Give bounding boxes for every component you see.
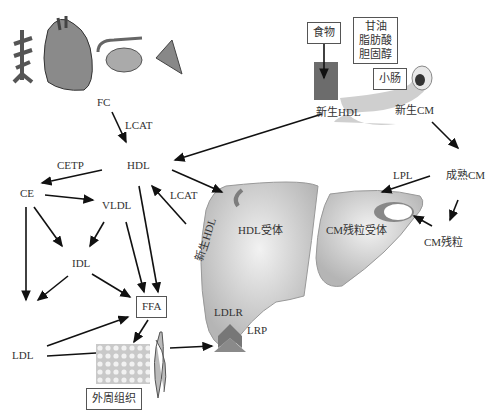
label-cm-remnant: CM残粒 xyxy=(424,237,463,248)
nutrient-fatty-acid: 脂肪酸 xyxy=(359,34,392,48)
label-vldl: VLDL xyxy=(102,200,131,211)
nutrient-cholesterol: 胆固醇 xyxy=(359,48,392,62)
label-lpl: LPL xyxy=(393,170,413,181)
blood-vessel-illustration xyxy=(14,30,32,82)
adipose-tissue-illustration xyxy=(96,344,150,384)
label-nascent-cm: 新生CM xyxy=(395,105,434,116)
label-mature-cm: 成熟CM xyxy=(446,170,485,181)
heart-illustration xyxy=(44,16,92,90)
label-cm-remnant-receptor: CM残粒受体 xyxy=(326,225,387,236)
label-ldlr: LDLR xyxy=(214,307,243,318)
label-hdl-receptor: HDL受体 xyxy=(238,225,283,236)
label-lrp: LRP xyxy=(247,325,267,336)
label-ldl: LDL xyxy=(12,350,33,361)
tissue-wedge-illustration xyxy=(156,40,182,74)
box-small-intestine: 小肠 xyxy=(373,68,407,90)
box-food: 食物 xyxy=(307,22,341,44)
muscle-illustration xyxy=(154,332,165,398)
label-lcat-mid: LCAT xyxy=(170,190,198,201)
box-nutrients: 甘油 脂肪酸 胆固醇 xyxy=(353,17,398,64)
nutrient-glycerol: 甘油 xyxy=(359,20,392,34)
liver-illustration xyxy=(201,182,423,352)
label-hdl: HDL xyxy=(127,160,150,171)
kidney-illustration xyxy=(98,38,142,72)
diagram-canvas xyxy=(0,0,494,417)
label-fc: FC xyxy=(97,97,110,108)
box-peripheral-tissue: 外周组织 xyxy=(86,388,142,410)
label-nascent-hdl: 新生HDL xyxy=(316,107,361,118)
label-idl: IDL xyxy=(72,258,90,269)
label-cetp: CETP xyxy=(57,160,84,171)
label-ce: CE xyxy=(20,188,34,199)
box-ffa: FFA xyxy=(136,296,167,318)
label-lcat-top: LCAT xyxy=(125,120,153,131)
